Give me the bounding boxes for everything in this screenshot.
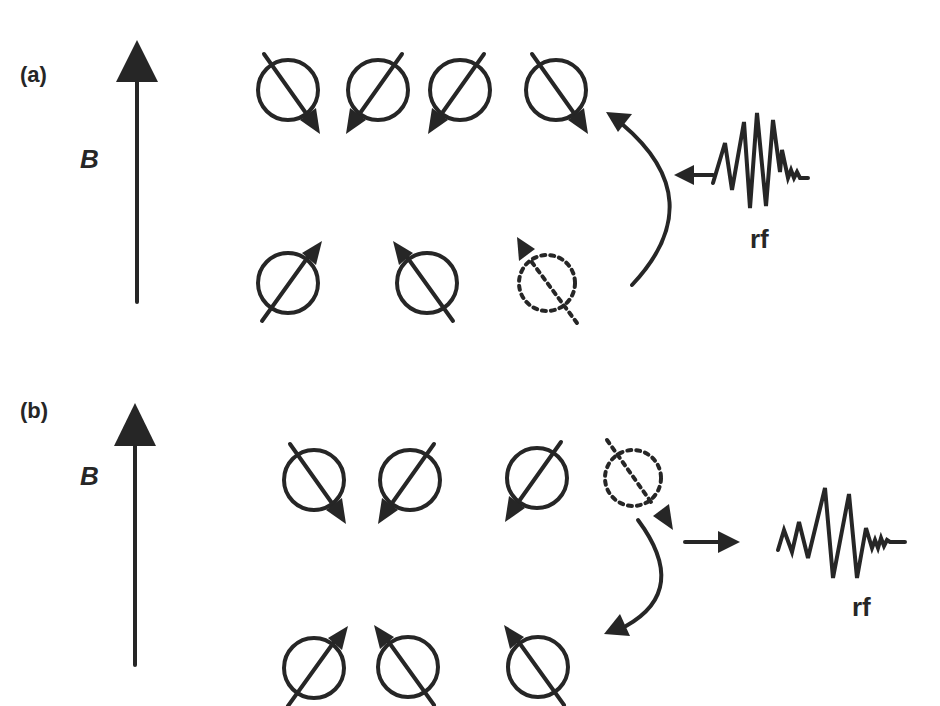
spin-down-icon — [258, 54, 320, 134]
spin-up-icon — [284, 626, 348, 706]
panel-a-label: (a) — [20, 62, 47, 87]
rf-label: rf — [852, 592, 871, 622]
spin-down-icon — [526, 54, 588, 134]
spin-down-icon — [428, 54, 490, 134]
field-label-b: B — [80, 144, 99, 174]
spin-down-icon — [284, 444, 346, 524]
spin-up-icon — [504, 625, 568, 705]
spin-down-icon — [346, 54, 408, 134]
rf-incoming-arrow-icon — [674, 165, 713, 185]
rf-label: rf — [750, 224, 769, 254]
vacated-spin-dashed-icon — [605, 440, 673, 530]
panel-b-label: (b) — [20, 398, 48, 423]
emission-transition-arrow-icon — [604, 520, 661, 636]
magnetic-field-arrow-icon — [114, 403, 156, 665]
spin-down-icon — [505, 442, 567, 522]
field-label-b: B — [80, 461, 99, 491]
spin-down-icon — [378, 444, 440, 524]
panel-b: (b) B rf — [20, 398, 905, 706]
rf-emission-wave-icon — [778, 488, 905, 578]
nmr-spin-diagram: (a) B rf — [0, 0, 940, 706]
vacated-spin-dashed-icon — [517, 237, 577, 323]
spin-up-icon — [393, 241, 457, 321]
rf-outgoing-arrow-icon — [685, 531, 740, 553]
rf-pulse-wave-icon — [713, 113, 808, 208]
spin-up-icon — [258, 241, 322, 321]
absorption-transition-arrow-icon — [606, 112, 670, 285]
spin-up-icon — [374, 625, 438, 705]
magnetic-field-arrow-icon — [116, 40, 158, 302]
panel-a: (a) B rf — [20, 40, 808, 323]
